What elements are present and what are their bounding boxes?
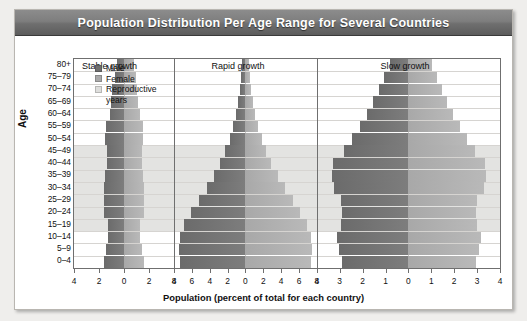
bar-female xyxy=(245,207,300,218)
bar-female xyxy=(124,158,142,169)
x-axis-tick: 1 xyxy=(383,276,388,286)
x-axis-tick: 0 xyxy=(122,276,127,286)
bar-female xyxy=(245,232,311,243)
bar-female xyxy=(408,133,466,144)
x-axis-tick: 2 xyxy=(147,276,152,286)
bar-male xyxy=(332,170,409,181)
bar-male xyxy=(184,219,245,230)
bar-female xyxy=(245,72,249,83)
panel-title: Slow growth xyxy=(380,61,429,71)
bar-male xyxy=(104,195,124,206)
bar-male xyxy=(344,145,408,156)
bar-male xyxy=(236,109,245,120)
bar-female xyxy=(408,158,485,169)
bar-male xyxy=(367,109,408,120)
bar-female xyxy=(124,232,140,243)
bar-female xyxy=(408,96,447,107)
bar-male xyxy=(379,84,409,95)
x-axis-tick: 2 xyxy=(225,276,230,286)
x-axis-tick: 6 xyxy=(190,276,195,286)
x-axis-tick-mark xyxy=(431,269,432,273)
bar-male xyxy=(333,158,409,169)
bar-male xyxy=(342,207,408,218)
bar-male xyxy=(106,121,124,132)
bar-male xyxy=(334,182,408,193)
y-axis-tick: 75–79 xyxy=(48,72,71,80)
bar-female xyxy=(245,182,284,193)
screenshot-root: Population Distribution Per Age Range fo… xyxy=(0,0,527,321)
x-axis-tick: 1 xyxy=(429,276,434,286)
x-axis-tick-mark xyxy=(363,269,364,273)
y-axis-tick: 0–4 xyxy=(57,256,71,264)
x-axis-tick-mark xyxy=(174,269,175,273)
x-axis-label: Population (percent of total for each co… xyxy=(15,292,512,303)
bar-female xyxy=(124,121,143,132)
x-axis-tick: 8 xyxy=(172,276,177,286)
x-axis-tick: 2 xyxy=(97,276,102,286)
x-axis-tick: 3 xyxy=(475,276,480,286)
bar-male xyxy=(105,170,124,181)
x-axis-tick: 4 xyxy=(207,276,212,286)
page-title: Population Distribution Per Age Range fo… xyxy=(78,16,450,30)
chart-body: Age 80+75–7970–7465–6960–6455–5950–5445–… xyxy=(15,36,512,309)
bar-male xyxy=(352,133,408,144)
bar-male xyxy=(225,145,245,156)
bar-male xyxy=(230,133,246,144)
legend-label-reproductive-years: years xyxy=(106,95,127,106)
chart-legend: Male Female Reproductive years xyxy=(95,63,157,105)
bar-female xyxy=(245,170,277,181)
bar-male xyxy=(107,158,124,169)
x-axis-tick: 4 xyxy=(72,276,77,286)
bar-male xyxy=(233,121,245,132)
bar-male xyxy=(104,207,124,218)
x-axis-tick-mark xyxy=(454,269,455,273)
y-axis-tick: 60–64 xyxy=(48,109,71,117)
x-axis-tick-mark xyxy=(124,269,125,273)
bar-female xyxy=(245,145,266,156)
x-axis-tick-mark xyxy=(99,269,100,273)
x-axis-tick: 4 xyxy=(279,276,284,286)
chart-title-bar: Population Distribution Per Age Range fo… xyxy=(15,10,512,36)
panel-title: Rapid growth xyxy=(211,61,264,71)
bar-male xyxy=(180,256,245,267)
bar-female xyxy=(408,195,477,206)
bar-female xyxy=(408,121,460,132)
bar-male xyxy=(108,219,124,230)
y-axis-tick: 20–24 xyxy=(48,207,71,215)
bar-female xyxy=(408,170,486,181)
x-axis-tick-mark xyxy=(263,269,264,273)
y-axis-tick-list: 80+75–7970–7465–6960–6455–5950–5445–4940… xyxy=(27,58,71,269)
bar-male xyxy=(104,182,124,193)
male-swatch-icon xyxy=(95,65,102,72)
legend-item-male: Male xyxy=(95,63,157,74)
bar-female xyxy=(245,121,257,132)
bar-male xyxy=(339,244,409,255)
x-axis-tick: 0 xyxy=(406,276,411,286)
reproductive-swatch-icon xyxy=(95,86,102,93)
bar-male xyxy=(384,72,408,83)
x-axis-tick-mark xyxy=(500,269,501,273)
bar-female xyxy=(124,109,140,120)
x-axis-tick-mark xyxy=(74,269,75,273)
bar-male xyxy=(191,207,245,218)
bar-male xyxy=(373,96,408,107)
y-axis-tick: 40–44 xyxy=(48,158,71,166)
bar-male xyxy=(341,219,409,230)
bar-female xyxy=(408,145,474,156)
x-axis-tick-list: 42024864202468432101234 xyxy=(73,269,501,291)
bar-male xyxy=(107,145,124,156)
y-axis-tick: 5–9 xyxy=(57,244,71,252)
bar-female xyxy=(124,219,140,230)
x-axis-tick-mark xyxy=(210,269,211,273)
y-axis-tick: 70–74 xyxy=(48,84,71,92)
x-axis-tick: 2 xyxy=(261,276,266,286)
x-axis-tick: 0 xyxy=(243,276,248,286)
bar-female xyxy=(245,256,311,267)
bar-female xyxy=(408,182,484,193)
bar-female xyxy=(408,244,479,255)
bar-female xyxy=(124,182,144,193)
legend-item-female: Female xyxy=(95,74,157,85)
bar-male xyxy=(104,256,124,267)
bar-male xyxy=(105,133,124,144)
bar-male xyxy=(108,232,124,243)
